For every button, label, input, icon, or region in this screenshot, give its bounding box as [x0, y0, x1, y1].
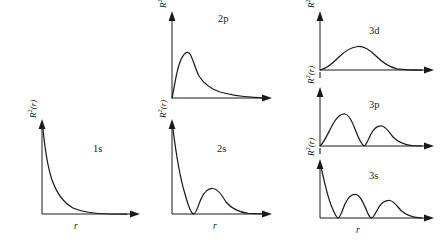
orbital-label-3p: 3p	[369, 100, 380, 111]
panel-3s: R2(r)	[308, 158, 440, 224]
curve-2p	[172, 52, 266, 98]
curve-3d	[320, 46, 422, 70]
radial-distribution-figure: R2(r) 1s r R2(r) 2p	[0, 0, 446, 245]
curve-2s	[173, 129, 264, 214]
y-axis-1s	[39, 119, 46, 214]
y-axis-label-text: R2(r)	[306, 138, 316, 156]
x-axis-label-2s: r	[213, 222, 217, 232]
plot-2s	[160, 118, 280, 218]
panel-3d: R2(r)	[308, 10, 440, 76]
panel-2s: R2(r)	[160, 118, 280, 218]
y-axis-2s	[169, 119, 176, 214]
curve-3p	[320, 114, 422, 146]
y-axis-label-text: R2(r)	[158, 100, 168, 118]
y-axis-label-text: R2(r)	[28, 100, 38, 118]
y-axis-3d	[317, 11, 324, 70]
x-axis-label-1s: r	[74, 222, 78, 232]
orbital-label-2p: 2p	[218, 14, 229, 25]
y-axis-label-text: R2(r)	[306, 66, 316, 84]
panel-1s: R2(r)	[30, 118, 145, 218]
orbital-label-1s: 1s	[93, 144, 102, 155]
plot-3d	[308, 10, 440, 76]
y-axis-3s	[317, 159, 324, 218]
x-axis-label-3s: r	[356, 226, 360, 236]
panel-3p: R2(r)	[308, 86, 440, 152]
plot-1s	[30, 118, 145, 218]
plot-3s	[308, 158, 440, 224]
orbital-label-2s: 2s	[217, 144, 226, 155]
orbital-label-3s: 3s	[369, 171, 378, 182]
y-axis-label-text: R2(r)	[306, 0, 316, 8]
y-axis-3p	[317, 87, 324, 146]
plot-3p	[308, 86, 440, 152]
curve-1s	[43, 129, 127, 214]
y-axis-label-text: R2(r)	[158, 0, 168, 8]
orbital-label-3d: 3d	[369, 26, 380, 37]
